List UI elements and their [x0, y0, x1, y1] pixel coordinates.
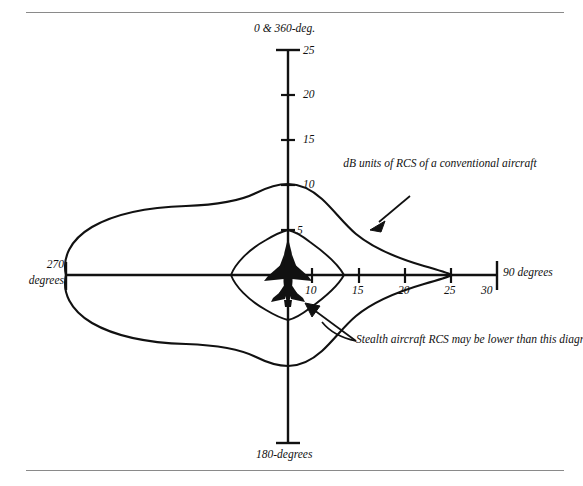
leader-line-conventional	[379, 196, 410, 222]
diagram-canvas	[0, 0, 583, 486]
tick-label-right-15: 15	[352, 284, 364, 298]
rcs-polar-diagram: 0 & 360-deg. 180-degrees 270 degrees 90 …	[0, 0, 583, 486]
tick-label-up-15: 15	[303, 133, 315, 147]
tick-label-right-30: 30	[481, 284, 493, 298]
label-270-degrees-line1: 270	[20, 258, 64, 272]
annotation-leaders	[305, 196, 410, 341]
label-0-360-deg: 0 & 360-deg.	[254, 22, 315, 36]
tick-label-up-20: 20	[303, 88, 315, 102]
label-180-degrees: 180-degrees	[256, 448, 312, 462]
conventional-rcs-upper	[65, 184, 452, 275]
annotation-stealth-aircraft: Stealth aircraft RCS may be lower than t…	[356, 333, 551, 347]
label-270-degrees-line2: degrees	[12, 274, 64, 288]
tick-label-right-20: 20	[398, 284, 410, 298]
conventional-rcs-lower	[65, 275, 452, 366]
label-90-degrees: 90 degrees	[503, 266, 553, 280]
tick-label-up-10: 10	[303, 178, 315, 192]
tick-label-right-25: 25	[444, 284, 456, 298]
tick-label-up-25: 25	[303, 44, 315, 58]
arrowhead-conventional	[370, 221, 385, 232]
tick-label-right-10: 10	[305, 284, 317, 298]
axis-group	[66, 50, 497, 443]
tick-label-up-5: 5	[297, 224, 303, 238]
annotation-conventional-aircraft: dB units of RCS of a conventional aircra…	[340, 157, 540, 171]
